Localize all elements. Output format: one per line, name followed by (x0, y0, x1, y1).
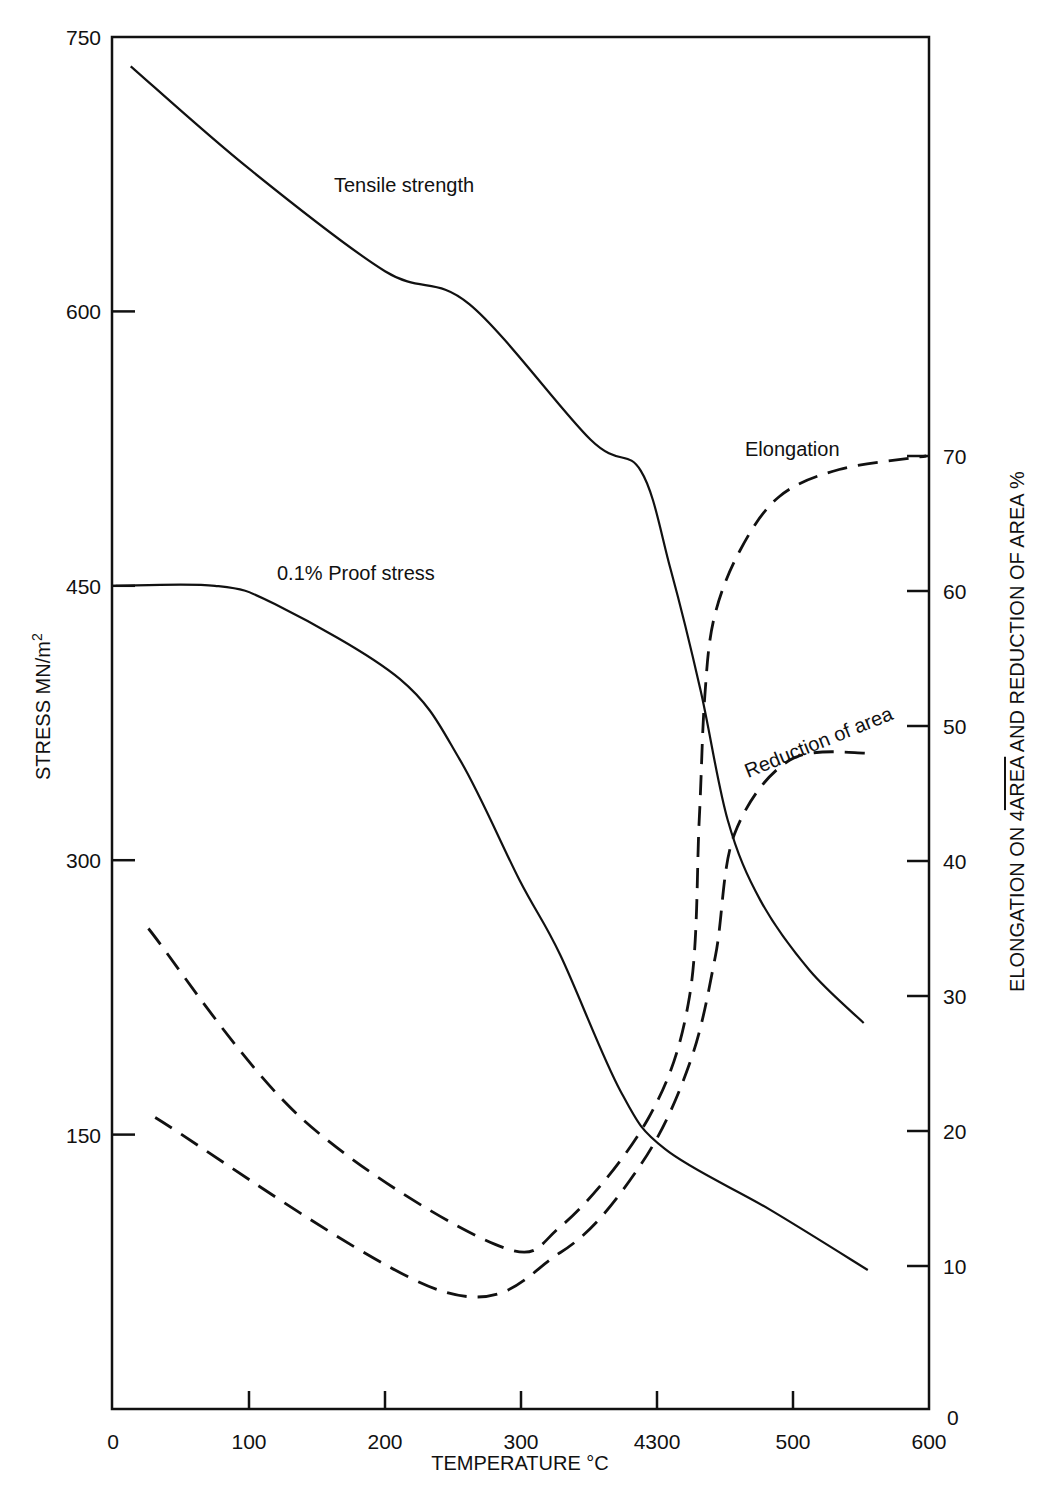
curves (116, 66, 927, 1297)
y2-tick-label: 30 (943, 985, 966, 1008)
x-tick-label: 200 (367, 1430, 402, 1453)
plot-frame (112, 37, 929, 1409)
y2-tick-label: 50 (943, 715, 966, 738)
reduction-of-area-curve (155, 752, 870, 1297)
x-tick-label: 100 (231, 1430, 266, 1453)
x-tick-label: 500 (775, 1430, 810, 1453)
y2-tick-label: 70 (943, 445, 966, 468)
y-tick-label: 750 (66, 26, 101, 49)
x-tick-label: 300 (503, 1430, 538, 1453)
chart: 01002003004300500600 150300450600750 010… (0, 0, 1040, 1489)
elongation-label: Elongation (745, 438, 840, 460)
y2-axis-ticks: 010203040506070 (907, 445, 966, 1429)
0-1-proof-stress-curve (116, 584, 868, 1270)
reduction-of-area-label: Reduction of area (741, 702, 896, 782)
y-tick-label: 450 (66, 575, 101, 598)
y2-tick-label: 40 (943, 850, 966, 873)
y2-tick-label: 20 (943, 1120, 966, 1143)
proof-stress-label: 0.1% Proof stress (277, 562, 435, 584)
x-tick-label: 600 (911, 1430, 946, 1453)
y2-axis-title: ELONGATION ON 4AREA AND REDUCTION OF ARE… (1006, 471, 1028, 992)
y-tick-label: 300 (66, 849, 101, 872)
y2-tick-label: 0 (947, 1406, 959, 1429)
x-tick-label: 4300 (634, 1430, 681, 1453)
y-axis-title: STRESS MN/m2 (29, 633, 54, 780)
y-tick-label: 600 (66, 300, 101, 323)
x-axis-title: TEMPERATURE °C (431, 1452, 609, 1474)
y2-tick-label: 60 (943, 580, 966, 603)
x-tick-label: 0 (107, 1430, 119, 1453)
tensile-strength-curve (131, 66, 864, 1023)
y-tick-label: 150 (66, 1124, 101, 1147)
x-axis-ticks: 01002003004300500600 (107, 1391, 946, 1453)
tensile-strength-label: Tensile strength (334, 174, 474, 196)
y2-tick-label: 10 (943, 1255, 966, 1278)
elongation-curve (148, 456, 926, 1252)
